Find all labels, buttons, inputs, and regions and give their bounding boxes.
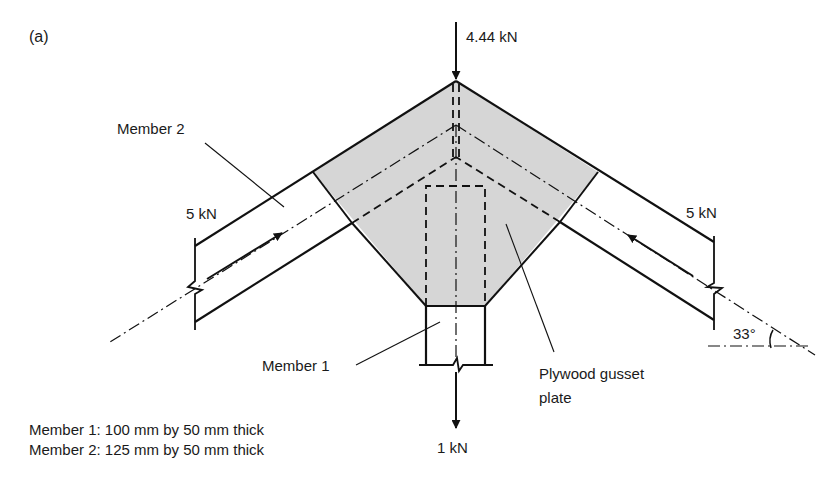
angle-label: 33° — [733, 325, 756, 342]
load-label-top: 4.44 kN — [466, 28, 518, 45]
member-dimension-notes: Member 1: 100 mm by 50 mm thick Member 2… — [29, 420, 264, 460]
leader-member-2 — [205, 143, 284, 207]
gusset-label: Plywood gusset plate — [539, 362, 644, 410]
member-1 — [419, 306, 493, 371]
angle-arc — [770, 330, 773, 348]
load-label-bottom: 1 kN — [437, 439, 468, 456]
gusset-label-line-1: Plywood gusset — [539, 362, 644, 386]
load-label-left: 5 kN — [186, 205, 217, 222]
note-member-1: Member 1: 100 mm by 50 mm thick — [29, 420, 264, 440]
member-1-label: Member 1 — [262, 357, 330, 374]
load-label-right: 5 kN — [686, 204, 717, 221]
note-member-2: Member 2: 125 mm by 50 mm thick — [29, 440, 264, 460]
gusset-label-line-2: plate — [539, 386, 644, 410]
member-2-label: Member 2 — [117, 120, 185, 137]
panel-label: (a) — [29, 28, 49, 45]
